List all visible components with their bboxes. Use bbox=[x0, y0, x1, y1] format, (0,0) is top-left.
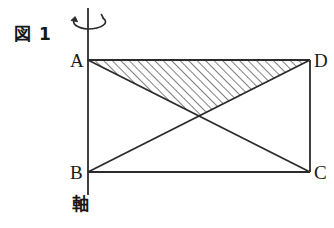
vertex-label-d: D bbox=[314, 51, 328, 70]
figure-1-diagram: 図 1 A B D C 軸 bbox=[0, 0, 334, 228]
axis-label: 軸 bbox=[72, 196, 89, 213]
hatched-region bbox=[88, 60, 310, 116]
vertex-label-a: A bbox=[70, 51, 84, 70]
figure-caption: 図 1 bbox=[14, 26, 52, 43]
vertex-label-c: C bbox=[314, 163, 327, 182]
vertex-label-b: B bbox=[70, 163, 83, 182]
